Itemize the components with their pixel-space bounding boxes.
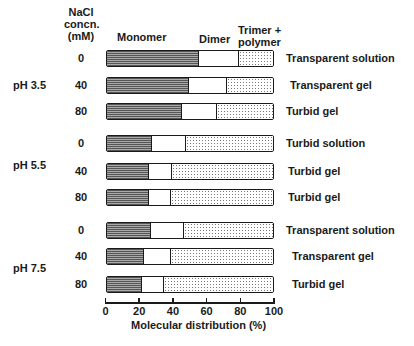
- stacked-bar: [106, 103, 275, 120]
- sample-state-label: Transparent gel: [292, 250, 374, 262]
- dimer-segment: [141, 277, 163, 292]
- x-axis-tick-label: 20: [124, 305, 154, 317]
- nacl-value-label: 40: [66, 250, 96, 262]
- x-axis-tick: [240, 298, 242, 303]
- nacl-value-label: 0: [66, 224, 96, 236]
- stacked-bar: [106, 77, 275, 94]
- trimer-polymer-segment: [171, 164, 273, 179]
- sample-state-label: Turbid gel: [292, 278, 344, 290]
- trimer-polymer-segment: [183, 223, 273, 238]
- monomer-header: Monomer: [117, 31, 167, 43]
- sample-state-label: Turbid gel: [288, 191, 340, 203]
- ph-label-3-5: pH 3.5: [13, 79, 46, 91]
- monomer-segment: [107, 164, 149, 179]
- sample-state-label: Turbid gel: [286, 105, 338, 117]
- dimer-segment: [181, 104, 216, 119]
- nacl-value-label: 0: [66, 52, 96, 64]
- nacl-header-line1: NaCl: [64, 6, 98, 18]
- x-axis-tick: [138, 298, 140, 303]
- nacl-value-label: 80: [66, 191, 96, 203]
- dimer-segment: [188, 78, 226, 93]
- monomer-segment: [107, 78, 189, 93]
- dimer-segment: [148, 190, 170, 205]
- nacl-header-line3: (mM): [64, 30, 98, 42]
- x-axis-tick: [206, 298, 208, 303]
- monomer-segment: [107, 277, 142, 292]
- ph-label-5-5: pH 5.5: [13, 159, 46, 171]
- sample-state-label: Turbid solution: [286, 137, 365, 149]
- monomer-segment: [107, 136, 152, 151]
- x-axis-tick-label: 60: [192, 305, 222, 317]
- monomer-segment: [107, 104, 182, 119]
- stacked-bar: [106, 163, 275, 180]
- monomer-segment: [107, 223, 150, 238]
- trimer-header-line2: polymer: [238, 36, 281, 48]
- x-axis-tick-label: 0: [91, 305, 121, 317]
- monomer-segment: [107, 249, 144, 264]
- x-axis-tick: [172, 298, 174, 303]
- nacl-value-label: 40: [66, 79, 96, 91]
- dimer-segment: [150, 223, 183, 238]
- stacked-bar: [106, 276, 275, 293]
- dimer-segment: [148, 164, 171, 179]
- x-axis-title: Molecular distribution (%): [131, 319, 266, 331]
- ph-label-7-5: pH 7.5: [13, 262, 46, 274]
- stacked-bar: [106, 248, 275, 265]
- trimer-polymer-segment: [216, 104, 273, 119]
- trimer-polymer-segment: [226, 78, 273, 93]
- trimer-polymer-segment: [185, 136, 273, 151]
- stacked-bar: [106, 135, 275, 152]
- x-axis-tick: [273, 298, 275, 303]
- x-axis-tick-label: 40: [158, 305, 188, 317]
- x-axis-tick-label: 100: [259, 305, 289, 317]
- sample-state-label: Transparent solution: [286, 52, 395, 64]
- stacked-bar: [106, 222, 275, 239]
- sample-state-label: Transparent gel: [290, 79, 372, 91]
- trimer-header-line1: Trimer +: [238, 24, 281, 36]
- dimer-segment: [151, 136, 184, 151]
- monomer-segment: [107, 190, 149, 205]
- x-axis-tick-label: 80: [225, 305, 255, 317]
- nacl-value-label: 40: [66, 165, 96, 177]
- x-axis-tick: [105, 298, 107, 303]
- nacl-header-line2: concn.: [64, 18, 98, 30]
- nacl-header: NaCl concn. (mM): [64, 6, 98, 42]
- sample-state-label: Turbid gel: [288, 165, 340, 177]
- dimer-segment: [198, 51, 238, 66]
- nacl-value-label: 0: [66, 137, 96, 149]
- dimer-segment: [143, 249, 170, 264]
- nacl-value-label: 80: [66, 105, 96, 117]
- nacl-value-label: 80: [66, 278, 96, 290]
- dimer-header: Dimer: [199, 33, 230, 45]
- trimer-polymer-header: Trimer + polymer: [238, 24, 281, 48]
- stacked-bar: [106, 189, 275, 206]
- trimer-polymer-segment: [163, 277, 273, 292]
- trimer-polymer-segment: [170, 249, 273, 264]
- stacked-bar: [106, 50, 275, 67]
- sample-state-label: Transparent solution: [286, 224, 395, 236]
- trimer-polymer-segment: [170, 190, 273, 205]
- x-axis-line: [105, 302, 275, 304]
- trimer-polymer-segment: [238, 51, 273, 66]
- monomer-segment: [107, 51, 199, 66]
